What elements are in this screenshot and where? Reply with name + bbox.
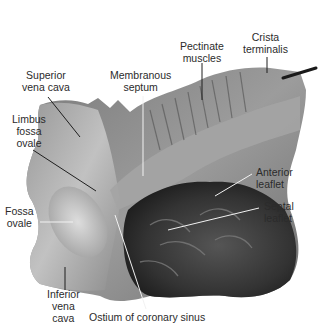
label-inferior-vena-cava: Inferior vena cava xyxy=(47,288,80,324)
label-membranous-septum: Membranous septum xyxy=(110,69,171,93)
label-limbus-fossa-ovale: Limbus fossa ovale xyxy=(12,113,46,149)
label-ostium-coronary-sinus: Ostium of coronary sinus xyxy=(89,311,205,323)
label-anterior-leaflet: Anterior leaflet xyxy=(256,166,293,190)
label-fossa-ovale: Fossa ovale xyxy=(5,205,34,229)
label-septal-leaflet: Septal leaflet xyxy=(264,200,294,224)
label-pectinate-muscles: Pectinate muscles xyxy=(180,40,224,64)
anatomical-figure: Superior vena cava Membranous septum Pec… xyxy=(0,0,318,329)
label-crista-terminalis: Crista terminalis xyxy=(243,31,288,55)
label-superior-vena-cava: Superior vena cava xyxy=(22,69,70,93)
